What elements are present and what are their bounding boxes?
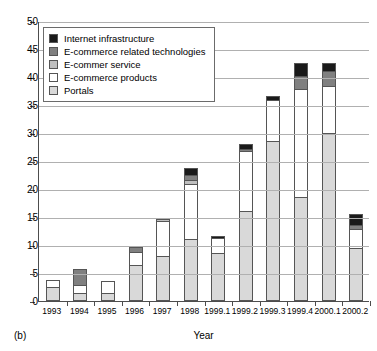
y-axis: 05101520253035404550 xyxy=(0,0,38,324)
bar-stack xyxy=(322,63,336,301)
x-axis-tick-label: 1998 xyxy=(176,306,204,317)
legend-item[interactable]: Internet infrastructure xyxy=(49,32,206,45)
bar-segment xyxy=(184,239,198,301)
gridline xyxy=(39,246,369,247)
x-axis-tick-label: 1993 xyxy=(38,306,66,317)
x-axis-tick-label: 1995 xyxy=(93,306,121,317)
legend-swatch-icon xyxy=(49,34,58,43)
gridline xyxy=(39,134,369,135)
x-axis-tick-label: 1999.4 xyxy=(286,306,314,317)
bar-segment xyxy=(322,133,336,301)
x-axis-tick-labels: 1993199419951996199719981999.11999.21999… xyxy=(38,306,369,320)
bar-segment xyxy=(322,86,336,134)
legend-item[interactable]: E-commerce related technologies xyxy=(49,45,206,58)
y-axis-tick-label: 25 xyxy=(12,157,38,167)
bar-stack xyxy=(349,214,363,301)
bar-segment xyxy=(101,293,115,301)
legend-swatch-icon xyxy=(49,60,58,69)
bar-segment xyxy=(184,184,198,240)
legend-item-label: E-commerce related technologies xyxy=(64,46,206,57)
y-axis-tick-label: 50 xyxy=(12,17,38,27)
legend-item[interactable]: E-commer service xyxy=(49,58,206,71)
bar-stack xyxy=(101,281,115,301)
y-axis-tick-label: 0 xyxy=(12,297,38,307)
bar-segment xyxy=(156,256,170,301)
x-axis-tick-label: 1996 xyxy=(121,306,149,317)
gridline xyxy=(39,162,369,163)
bar-stack xyxy=(239,144,253,301)
legend-item[interactable]: E-commerce products xyxy=(49,71,206,84)
legend-swatch-icon xyxy=(49,73,58,82)
legend-swatch-icon xyxy=(49,47,58,56)
chart-figure: 05101520253035404550 1993199419951996199… xyxy=(0,0,377,351)
bar-segment xyxy=(322,71,336,88)
x-axis-tick-label: 1997 xyxy=(148,306,176,317)
bar-segment xyxy=(129,252,143,266)
bar-segment xyxy=(46,287,60,301)
legend-swatch-icon xyxy=(49,86,58,95)
bar-segment xyxy=(129,265,143,301)
y-axis-tick-label: 40 xyxy=(12,73,38,83)
legend-item-label: E-commerce products xyxy=(64,72,157,83)
chart-legend: Internet infrastructureE-commerce relate… xyxy=(43,27,215,102)
bar-stack xyxy=(294,63,308,301)
x-axis-tick xyxy=(370,301,371,306)
x-axis-tick-label: 1999.1 xyxy=(204,306,232,317)
bar-segment xyxy=(294,197,308,301)
bar-segment xyxy=(156,221,170,257)
bar-segment xyxy=(266,141,280,301)
legend-item-label: E-commer service xyxy=(64,59,141,70)
y-axis-tick-label: 35 xyxy=(12,101,38,111)
legend-item-label: Portals xyxy=(64,85,94,96)
y-axis-tick-label: 45 xyxy=(12,45,38,55)
bar-stack xyxy=(46,280,60,301)
x-axis-tick-label: 1999.3 xyxy=(259,306,287,317)
legend-item[interactable]: Portals xyxy=(49,84,206,97)
bar-stack xyxy=(266,96,280,301)
y-axis-tick-label: 30 xyxy=(12,129,38,139)
bar-segment xyxy=(239,211,253,301)
bar-segment xyxy=(73,293,87,301)
y-axis-tick-label: 10 xyxy=(12,241,38,251)
y-axis-tick-label: 20 xyxy=(12,185,38,195)
x-axis-title: Year xyxy=(38,330,369,341)
y-axis-tick-label: 5 xyxy=(12,269,38,279)
gridline xyxy=(39,218,369,219)
bar-stack xyxy=(156,219,170,301)
x-axis-tick-label: 2000.2 xyxy=(341,306,369,317)
gridline xyxy=(39,106,369,107)
gridline xyxy=(39,274,369,275)
gridline xyxy=(39,190,369,191)
x-axis-tick-label: 1994 xyxy=(66,306,94,317)
bar-segment xyxy=(239,151,253,213)
panel-label: (b) xyxy=(14,330,26,341)
x-axis-tick-label: 2000.1 xyxy=(314,306,342,317)
bar-segment xyxy=(73,269,87,286)
y-axis-tick-label: 15 xyxy=(12,213,38,223)
legend-item-label: Internet infrastructure xyxy=(64,33,154,44)
bar-stack xyxy=(184,168,198,301)
x-axis-tick-label: 1999.2 xyxy=(231,306,259,317)
gridline xyxy=(39,22,369,23)
bar-segment xyxy=(211,253,225,301)
bar-segment xyxy=(294,63,308,77)
